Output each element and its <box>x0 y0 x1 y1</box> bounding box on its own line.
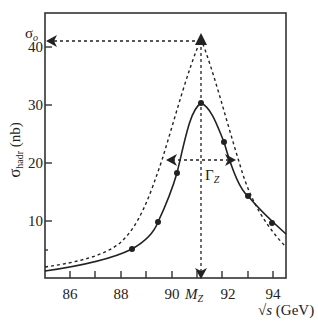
y-tick-10: 10 <box>28 213 43 229</box>
y-ticks <box>45 47 52 250</box>
y-axis-label: σhadr (nb) <box>5 122 25 178</box>
x-tick-88: 88 <box>114 286 129 302</box>
sigma0-label: σo <box>25 25 38 43</box>
data-points <box>129 100 275 252</box>
measured-curve-solid <box>45 103 286 271</box>
plot-frame <box>45 13 286 278</box>
x-tick-92: 92 <box>221 286 236 302</box>
born-curve-dashed <box>45 39 286 267</box>
gamma-left-arrowhead-icon <box>166 154 177 166</box>
x-tick-90: 90 <box>165 286 180 302</box>
x-tick-94: 94 <box>266 286 282 302</box>
y-tick-20: 20 <box>28 155 43 171</box>
mz-label: MZ <box>184 286 204 304</box>
x-tick-86: 86 <box>63 286 79 302</box>
gamma-z-label: ΓZ <box>205 167 220 185</box>
z-resonance-chart: 86 88 90 92 94 10 20 30 40 σo σhadr (nb)… <box>0 0 318 321</box>
x-axis-label: √s (GeV) <box>258 302 314 319</box>
y-tick-30: 30 <box>28 97 43 113</box>
x-ticks <box>70 271 273 278</box>
